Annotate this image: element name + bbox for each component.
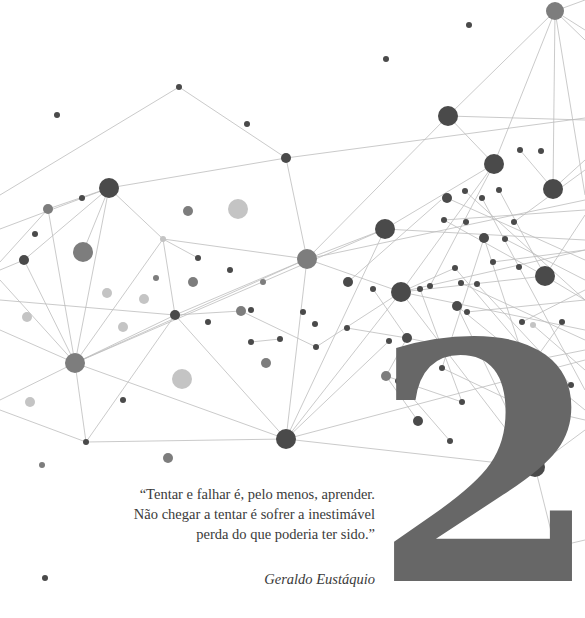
network-node bbox=[25, 397, 35, 407]
network-node bbox=[99, 178, 119, 198]
network-edge bbox=[448, 116, 585, 120]
network-edge bbox=[448, 11, 555, 116]
network-edge bbox=[555, 11, 585, 195]
network-edge bbox=[48, 209, 75, 363]
network-node bbox=[516, 264, 522, 270]
network-node bbox=[183, 206, 193, 216]
network-node bbox=[32, 231, 38, 237]
network-node bbox=[170, 310, 180, 320]
network-node bbox=[188, 277, 198, 287]
network-node bbox=[375, 219, 395, 239]
network-node bbox=[43, 204, 53, 214]
epigraph-line: “Tentar e falhar é, pelo menos, aprender… bbox=[45, 484, 375, 504]
network-edge bbox=[83, 188, 109, 252]
network-node bbox=[277, 336, 283, 342]
network-edge bbox=[24, 260, 75, 363]
network-node bbox=[73, 242, 93, 262]
network-edge bbox=[175, 311, 241, 315]
network-node bbox=[65, 353, 85, 373]
network-node bbox=[227, 267, 233, 273]
network-node bbox=[297, 249, 317, 269]
network-edge bbox=[86, 315, 175, 442]
network-edge bbox=[0, 363, 75, 400]
network-node bbox=[195, 255, 201, 261]
network-node bbox=[313, 344, 319, 350]
network-node bbox=[260, 279, 266, 285]
network-node bbox=[19, 255, 29, 265]
network-edge bbox=[75, 363, 86, 442]
network-node bbox=[546, 2, 564, 20]
network-node bbox=[22, 312, 32, 322]
network-node bbox=[479, 195, 485, 201]
network-node bbox=[54, 112, 60, 118]
network-node bbox=[160, 236, 166, 242]
network-node bbox=[118, 322, 128, 332]
network-node bbox=[236, 306, 246, 316]
network-node bbox=[79, 195, 85, 201]
network-node bbox=[120, 397, 126, 403]
network-edge bbox=[0, 188, 109, 229]
network-node bbox=[538, 148, 544, 154]
network-node bbox=[83, 439, 89, 445]
network-edge bbox=[86, 439, 286, 442]
network-edge bbox=[0, 410, 86, 442]
network-node bbox=[276, 429, 296, 449]
network-node bbox=[281, 153, 291, 163]
network-node bbox=[442, 193, 452, 203]
network-edge bbox=[0, 280, 75, 363]
epigraph-line: Não chegar a tentar é sofrer a inestimáv… bbox=[45, 504, 375, 524]
network-node bbox=[502, 236, 508, 242]
network-node bbox=[248, 339, 254, 345]
network-edge bbox=[0, 87, 179, 195]
network-node bbox=[496, 187, 502, 193]
chapter-number: 2 bbox=[372, 300, 542, 618]
network-node bbox=[343, 277, 353, 287]
network-edge bbox=[430, 164, 494, 286]
network-node bbox=[543, 179, 563, 199]
network-edge bbox=[251, 339, 280, 342]
network-edge bbox=[109, 188, 163, 239]
network-edge bbox=[75, 315, 175, 363]
network-node bbox=[244, 121, 250, 127]
network-node bbox=[176, 84, 182, 90]
network-node bbox=[205, 319, 211, 325]
network-node bbox=[441, 217, 447, 223]
network-node bbox=[490, 259, 496, 265]
network-edge bbox=[545, 215, 585, 276]
network-edge bbox=[163, 239, 307, 259]
network-node bbox=[139, 294, 149, 304]
network-node bbox=[153, 275, 159, 281]
network-edge bbox=[0, 330, 75, 363]
network-edge bbox=[75, 259, 307, 363]
network-edge bbox=[163, 239, 175, 315]
network-edge bbox=[494, 11, 555, 164]
network-node bbox=[438, 106, 458, 126]
network-edge bbox=[0, 209, 48, 262]
network-edge bbox=[286, 158, 307, 259]
network-edge bbox=[286, 259, 307, 439]
network-node bbox=[312, 321, 318, 327]
network-edge bbox=[179, 87, 286, 158]
epigraph-author: Geraldo Eustáquio bbox=[264, 571, 375, 588]
network-node bbox=[344, 325, 350, 331]
network-node bbox=[261, 358, 271, 368]
network-node bbox=[511, 219, 517, 225]
network-edge bbox=[307, 116, 448, 259]
network-edge bbox=[163, 239, 198, 258]
network-edge bbox=[553, 11, 555, 189]
network-node bbox=[462, 188, 468, 194]
epigraph-quote: “Tentar e falhar é, pelo menos, aprender… bbox=[45, 484, 375, 544]
network-node bbox=[42, 575, 48, 581]
network-node bbox=[102, 288, 112, 298]
network-node bbox=[463, 219, 469, 225]
network-node bbox=[466, 22, 472, 28]
network-edge bbox=[75, 188, 109, 363]
network-edge bbox=[75, 229, 385, 363]
network-edge bbox=[385, 164, 494, 229]
network-node bbox=[479, 233, 489, 243]
network-node bbox=[39, 462, 45, 468]
network-node bbox=[248, 307, 254, 313]
network-node bbox=[172, 369, 192, 389]
network-edge bbox=[24, 188, 109, 260]
network-edge bbox=[447, 198, 585, 260]
